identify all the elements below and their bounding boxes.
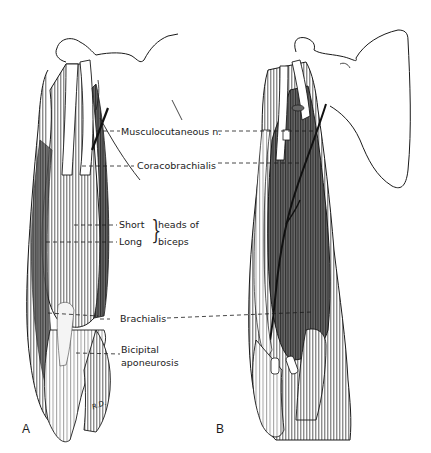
label-aponeurosis: aponeurosis (121, 357, 179, 368)
anatomy-figure: Musculocutaneous n. Coracobrachialis Sho… (0, 0, 431, 453)
label-coracobrachialis: Coracobrachialis (137, 160, 216, 171)
label-brachialis: Brachialis (120, 313, 166, 324)
panel-b-drawing (249, 30, 411, 440)
label-bicipital: Bicipital (121, 344, 159, 355)
panel-letter-a: A (22, 422, 30, 436)
label-musculocutaneous-nerve: Musculocutaneous n. (121, 126, 221, 137)
label-short-head: Short (119, 219, 145, 230)
label-long-head: Long (119, 236, 142, 247)
illustration (0, 0, 431, 453)
label-heads-of: heads of (158, 219, 199, 230)
panel-letter-b: B (216, 422, 224, 436)
label-biceps: biceps (158, 236, 189, 247)
